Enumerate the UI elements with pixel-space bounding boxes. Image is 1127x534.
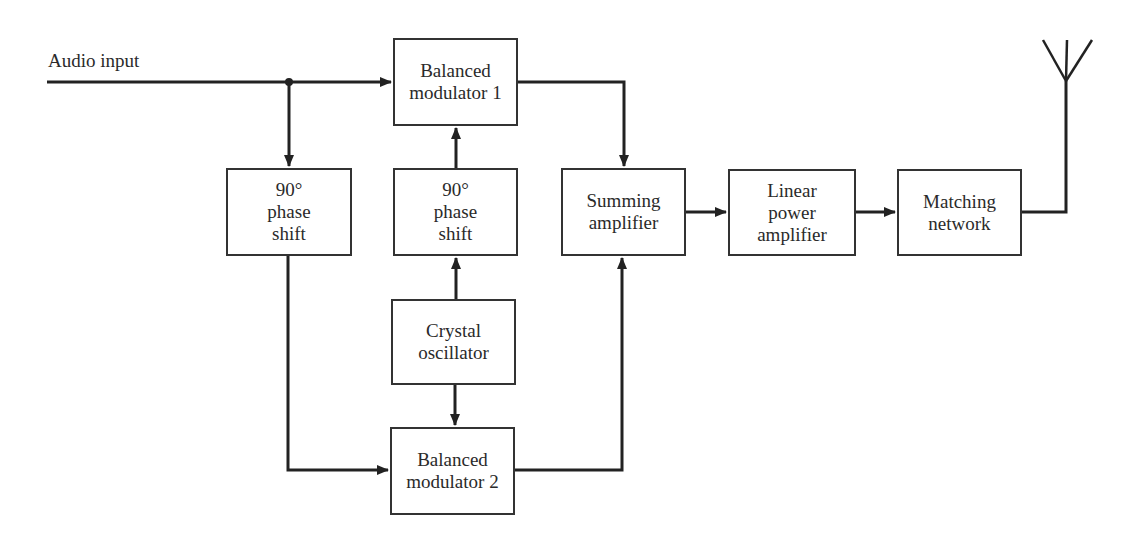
block-text: power [768, 202, 815, 224]
antenna-icon [1043, 40, 1092, 81]
junction-dot [285, 78, 293, 86]
block-text: 90° [442, 179, 469, 201]
balanced-modulator-1-block: Balanced modulator 1 [393, 38, 518, 126]
block-text: network [928, 213, 990, 235]
block-text: oscillator [418, 342, 489, 364]
block-text: Matching [923, 191, 996, 213]
block-text: Linear [767, 180, 817, 202]
audio-input-label: Audio input [48, 50, 139, 72]
block-text: modulator 2 [406, 471, 498, 493]
block-text: Balanced [420, 60, 491, 82]
bm1-to-summing-wire [518, 82, 624, 166]
phase-shift-middle-block: 90° phase shift [393, 168, 518, 256]
connection-wires [0, 0, 1127, 534]
bm2-to-summing-wire [515, 258, 622, 470]
phase-shift-left-block: 90° phase shift [226, 168, 352, 256]
block-text: Balanced [417, 449, 488, 471]
balanced-modulator-2-block: Balanced modulator 2 [390, 427, 515, 515]
summing-amplifier-block: Summing amplifier [561, 168, 686, 256]
linear-power-amplifier-block: Linear power amplifier [728, 169, 856, 256]
block-text: amplifier [589, 212, 659, 234]
block-text: Crystal [426, 320, 481, 342]
matching-network-block: Matching network [897, 169, 1022, 256]
block-text: shift [439, 223, 473, 245]
block-text: shift [272, 223, 306, 245]
phase-to-bm2-wire [288, 256, 388, 470]
matching-to-antenna-wire [1022, 81, 1066, 212]
block-text: Summing [587, 190, 661, 212]
block-text: phase [434, 201, 477, 223]
block-text: phase [267, 201, 310, 223]
block-text: modulator 1 [409, 82, 501, 104]
block-text: amplifier [757, 224, 827, 246]
block-text: 90° [276, 179, 303, 201]
crystal-oscillator-block: Crystal oscillator [391, 299, 516, 385]
